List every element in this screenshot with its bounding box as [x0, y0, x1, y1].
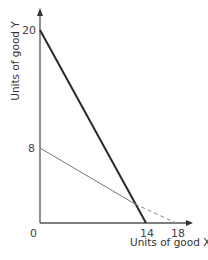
y-axis-title: Units of good Y	[9, 16, 21, 106]
y-tick-8: 8	[28, 143, 35, 154]
x-axis-title: Units of good X	[130, 236, 208, 248]
origin-label: 0	[30, 228, 37, 239]
budget-line-a	[40, 30, 146, 223]
budget-lines-chart: Units of good Y 20 8 0 14 18 Units of go…	[0, 0, 208, 260]
y-tick-20: 20	[22, 25, 36, 36]
y-axis-arrow-icon	[37, 8, 43, 16]
x-axis-arrow-icon	[186, 220, 193, 226]
chart-plot-area	[0, 0, 208, 260]
